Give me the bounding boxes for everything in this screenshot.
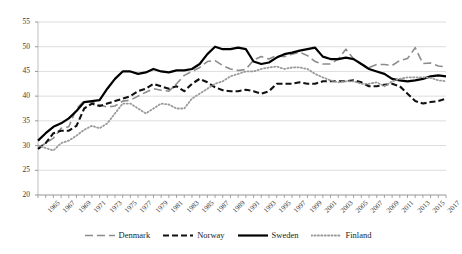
chart-legend: DenmarkNorwaySwedenFinland <box>0 231 456 240</box>
y-axis-tick-label: 40 <box>10 92 30 100</box>
legend-swatch-denmark <box>85 232 115 239</box>
y-axis-tick-label: 25 <box>10 166 30 174</box>
legend-item-norway[interactable]: Norway <box>163 231 224 240</box>
legend-label: Sweden <box>272 231 299 240</box>
series-line-denmark <box>38 48 446 148</box>
series-line-norway <box>38 79 446 149</box>
legend-label: Norway <box>197 231 224 240</box>
legend-swatch-sweden <box>238 232 268 239</box>
y-axis-tick-label: 50 <box>10 43 30 51</box>
y-axis-tick-label: 45 <box>10 67 30 75</box>
legend-item-finland[interactable]: Finland <box>311 231 371 240</box>
legend-label: Finland <box>345 231 371 240</box>
series-line-finland <box>38 66 446 150</box>
y-axis-tick-label: 35 <box>10 117 30 125</box>
y-axis-tick-label: 30 <box>10 142 30 150</box>
y-axis-tick-label: 20 <box>10 191 30 199</box>
legend-swatch-norway <box>163 232 193 239</box>
legend-swatch-finland <box>311 232 341 239</box>
legend-item-sweden[interactable]: Sweden <box>238 231 299 240</box>
series-line-sweden <box>38 47 446 141</box>
y-axis-tick-label: 55 <box>10 18 30 26</box>
legend-label: Denmark <box>119 231 151 240</box>
legend-item-denmark[interactable]: Denmark <box>85 231 151 240</box>
